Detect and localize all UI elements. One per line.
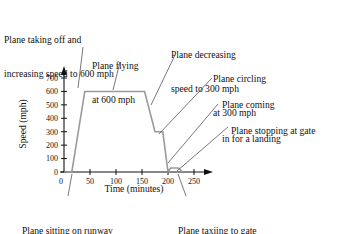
x-tick-label: 50 [86,177,94,186]
y-tick-label: 0 [54,168,58,177]
annotation-flying-line2: at 600 mph [92,94,139,105]
annotation-sitting-line1: Plane sitting on runway [22,225,113,234]
origin-tick-label: 0 [59,177,63,186]
y-tick-label: 200 [46,141,58,150]
annotation-flying: Plane flying at 600 mph [92,38,139,128]
x-tick-label: 250 [188,177,200,186]
annotation-stopping-line1: Plane stopping at gate [231,125,315,136]
y-axis-title: Speed (mph) [17,99,29,148]
annotation-flying-line1: Plane flying [92,60,139,71]
y-tick-label: 400 [46,114,58,123]
leader-line-sitting [68,174,72,196]
annotation-sitting: Plane sitting on runway [22,203,113,234]
y-tick-label: 500 [46,101,58,110]
annotation-taxiing: Plane taxiing to gate [178,203,257,234]
annotation-taxiing-line1: Plane taxiing to gate [178,225,257,234]
y-tick-label: 100 [46,154,58,163]
x-tick-label: 200 [162,177,174,186]
y-tick-label: 300 [46,128,58,137]
annotation-stopping: Plane stopping at gate [231,103,315,159]
x-axis-title: Time (minutes) [104,183,163,195]
chart-page: 0100200300400500600700 50100150200250 Ti… [0,0,344,234]
leader-line-taxiing [178,174,186,196]
x-axis-arrowhead [204,169,213,175]
